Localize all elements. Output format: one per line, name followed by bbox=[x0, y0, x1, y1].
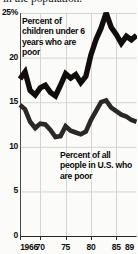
x-axis-tick-label: 75 bbox=[53, 243, 79, 252]
poverty-line-chart: 25%20151050 19667075808589 Percent of ch… bbox=[0, 0, 137, 254]
x-axis-tick-label: 70 bbox=[27, 243, 53, 252]
series-label-all-people: Percent of all people in U.S. who are po… bbox=[60, 150, 135, 181]
clipped-caption-strip: in the population. bbox=[0, 0, 137, 8]
x-axis-tick-label: 80 bbox=[78, 243, 104, 252]
y-axis-tick-label: 25% bbox=[0, 8, 18, 17]
y-axis-tick-label: 20 bbox=[0, 53, 18, 62]
y-axis-tick-label: 5 bbox=[0, 186, 18, 195]
series-label-children-under-6: Percent of children under 6 years who ar… bbox=[22, 16, 94, 58]
y-axis-tick-label: 10 bbox=[0, 142, 18, 151]
x-axis-tick-label: 89 bbox=[117, 243, 138, 252]
series-line-all-people bbox=[20, 100, 137, 137]
chart-page: in the population. 25%20151050 196670758… bbox=[0, 0, 137, 254]
clipped-caption-text: in the population. bbox=[3, 0, 82, 4]
y-axis-tick-label: 0 bbox=[0, 231, 18, 240]
y-axis-tick-label: 15 bbox=[0, 97, 18, 106]
